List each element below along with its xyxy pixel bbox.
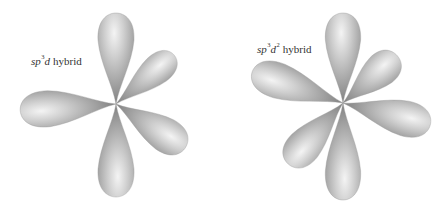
label-sp: sp bbox=[31, 55, 41, 67]
label-exp2: 2 bbox=[277, 41, 280, 48]
lobe-left bbox=[19, 86, 117, 129]
label-word: hybrid bbox=[283, 43, 312, 55]
label-word: hybrid bbox=[53, 55, 82, 67]
label-orb: d bbox=[45, 55, 51, 67]
label-sp: sp bbox=[257, 43, 267, 55]
hybrid-orbitals-diagram bbox=[0, 0, 445, 209]
sp3d2-label: sp3d2hybrid bbox=[257, 41, 312, 55]
sp3d-orbital-group bbox=[19, 13, 195, 197]
sp3d-label: sp3dhybrid bbox=[31, 53, 82, 67]
label-orb: d bbox=[271, 43, 277, 55]
